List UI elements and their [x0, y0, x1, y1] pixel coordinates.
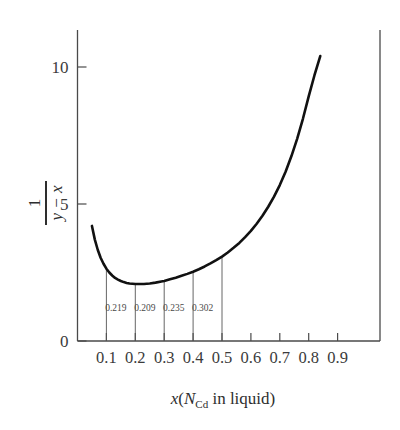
chart-figure: 0.10.20.30.40.50.60.70.80.9 0510 0.2190.…	[0, 0, 400, 430]
x-tick-label-0.4: 0.4	[183, 348, 204, 367]
curve-group	[92, 56, 320, 284]
annotation-value-0.302: 0.302	[192, 303, 214, 313]
x-tick-label-0.3: 0.3	[154, 348, 175, 367]
axes-group	[78, 30, 381, 341]
drop-lines-group	[106, 257, 222, 341]
annotation-value-0.209: 0.209	[134, 303, 156, 313]
x-tick-label-0.5: 0.5	[212, 348, 233, 367]
x-tick-labels: 0.10.20.30.40.50.60.70.80.9	[96, 348, 348, 367]
annotation-value-0.219: 0.219	[105, 303, 127, 313]
y-tick-label-10: 10	[52, 58, 69, 77]
y-tick-label-0: 0	[60, 332, 69, 351]
y-axis-numerator: 1	[26, 195, 45, 212]
x-tick-label-0.1: 0.1	[96, 348, 117, 367]
y-axis-fraction: 1 y − x	[26, 181, 65, 224]
x-tick-label-0.2: 0.2	[125, 348, 146, 367]
y-axis-denominator: y − x	[47, 181, 66, 224]
x-tick-label-0.6: 0.6	[241, 348, 262, 367]
annotation-labels: 0.2190.2090.2350.302	[105, 303, 213, 313]
x-tick-label-0.7: 0.7	[269, 348, 290, 367]
x-axis-title: x(NCd in liquid)	[170, 389, 275, 410]
y-axis-title: 1 y − x	[11, 173, 81, 233]
x-tick-label-0.9: 0.9	[327, 348, 348, 367]
x-tick-label-0.8: 0.8	[298, 348, 319, 367]
annotation-value-0.235: 0.235	[163, 303, 185, 313]
data-curve	[92, 56, 320, 284]
x-axis-title-text: x(NCd in liquid)	[170, 389, 275, 410]
